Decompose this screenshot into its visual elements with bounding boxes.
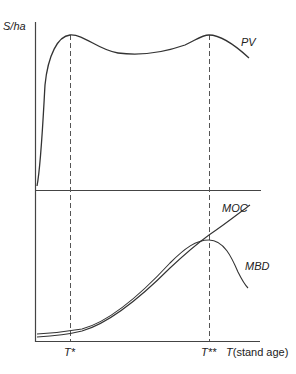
x-axis-label: T(stand age): [226, 346, 288, 358]
mbd-curve: [37, 240, 248, 334]
mbd-label: MBD: [245, 260, 270, 272]
pv-label: PV: [241, 36, 257, 48]
moc-curve: [37, 205, 250, 337]
moc-label: MOC: [222, 202, 248, 214]
t-double-star-label: T**: [201, 346, 217, 358]
x-axis-label-rest: (stand age): [233, 346, 289, 358]
t-star-label: T*: [64, 346, 76, 358]
forestry-rotation-diagram: S/ha PV MOC MBD T* T** T(stand age): [0, 0, 296, 374]
y-axis-label: S/ha: [3, 20, 26, 32]
pv-curve: [37, 35, 249, 186]
